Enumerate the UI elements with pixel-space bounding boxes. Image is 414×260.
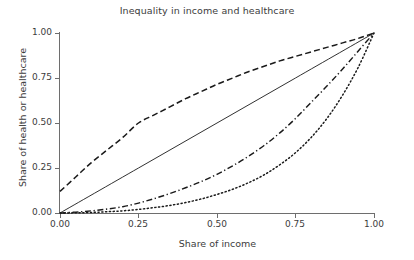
chart-title: Inequality in income and healthcare	[0, 5, 414, 16]
chart-figure: Inequality in income and healthcare 1.00…	[0, 0, 414, 260]
series-equality-line	[60, 33, 374, 213]
y-tick-mark	[55, 123, 59, 124]
y-tick-label: 0.75	[8, 73, 52, 82]
x-axis-label: Share of income	[60, 238, 375, 249]
y-tick-label: 0.25	[8, 163, 52, 172]
y-tick-mark	[55, 33, 59, 34]
y-tick-label: 1.00	[8, 28, 52, 37]
x-tick-mark	[217, 214, 218, 218]
series-convex-curve-moderate	[60, 33, 374, 213]
x-tick-mark	[138, 214, 139, 218]
y-tick-mark	[55, 168, 59, 169]
series-concave-curve	[60, 33, 374, 191]
x-tick-label: 0.25	[118, 220, 158, 229]
y-tick-label: 0.00	[8, 208, 52, 217]
x-tick-mark	[295, 214, 296, 218]
y-tick-label: 0.50	[8, 118, 52, 127]
y-tick-mark	[55, 78, 59, 79]
x-tick-label: 0.75	[275, 220, 315, 229]
x-tick-label: 1.00	[354, 220, 394, 229]
y-axis-label: Share of health or healthcare	[17, 10, 28, 225]
y-tick-mark	[55, 213, 59, 214]
x-tick-mark	[60, 214, 61, 218]
x-tick-label: 0.00	[40, 220, 80, 229]
x-tick-mark	[374, 214, 375, 218]
y-axis-spine	[59, 32, 60, 214]
x-tick-label: 0.50	[197, 220, 237, 229]
series-convex-curve-extreme	[60, 33, 374, 213]
